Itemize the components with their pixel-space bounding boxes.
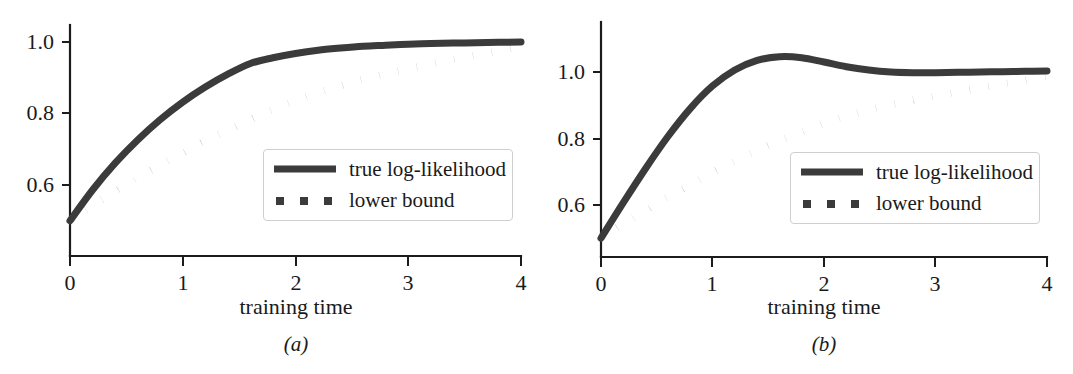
plot-area-b: 1.0 0.8 0.6 0 1 2 3 4 true log-likelihoo… — [536, 0, 1073, 300]
chart-panel-b: 1.0 0.8 0.6 0 1 2 3 4 true log-likelihoo… — [536, 0, 1073, 374]
legend-dotted-line-icon-a — [274, 190, 336, 212]
subcaption-a: (a) — [284, 334, 309, 355]
y-tick-marks-a — [62, 42, 70, 185]
chart-panel-a: 1.0 0.8 0.6 0 1 2 3 4 true log-likelihoo… — [0, 0, 536, 374]
legend-item-lower-bound-b: lower bound — [801, 193, 1027, 216]
y-tick-label-b-0: 1.0 — [539, 61, 585, 83]
legend-label-a-0: true log-likelihood — [349, 159, 506, 180]
legend-item-true-log-likelihood-b: true log-likelihood — [801, 161, 1027, 184]
legend-label-b-1: lower bound — [876, 193, 982, 214]
x-tick-label-a-3: 3 — [403, 272, 414, 294]
x-tick-label-b-3: 3 — [930, 273, 941, 295]
x-tick-label-b-4: 4 — [1042, 273, 1053, 295]
legend-item-true-log-likelihood-a: true log-likelihood — [274, 158, 500, 181]
legend-label-a-1: lower bound — [349, 190, 455, 211]
y-tick-label-a-1: 0.8 — [8, 102, 54, 124]
x-tick-label-b-1: 1 — [707, 273, 718, 295]
x-axis-title-a: training time — [239, 296, 352, 318]
figure-root: 1.0 0.8 0.6 0 1 2 3 4 true log-likelihoo… — [0, 0, 1073, 374]
legend-label-b-0: true log-likelihood — [876, 162, 1033, 183]
x-tick-label-a-4: 4 — [516, 272, 527, 294]
x-tick-label-b-0: 0 — [596, 273, 607, 295]
x-tick-marks-a — [70, 256, 521, 266]
x-axis-title-b: training time — [767, 296, 880, 318]
plot-canvas-b — [536, 0, 1073, 300]
subcaption-b: (b) — [812, 334, 837, 355]
plot-area-a: 1.0 0.8 0.6 0 1 2 3 4 true log-likelihoo… — [0, 0, 536, 300]
legend-a: true log-likelihood lower bound — [263, 149, 513, 221]
y-tick-label-a-2: 0.6 — [8, 174, 54, 196]
legend-solid-line-icon-a — [274, 158, 336, 180]
y-tick-label-b-2: 0.6 — [539, 194, 585, 216]
x-tick-label-a-1: 1 — [178, 272, 189, 294]
x-tick-label-a-0: 0 — [65, 272, 76, 294]
legend-b: true log-likelihood lower bound — [790, 152, 1040, 224]
x-tick-label-b-2: 2 — [819, 273, 830, 295]
x-tick-label-a-2: 2 — [291, 272, 302, 294]
legend-item-lower-bound-a: lower bound — [274, 190, 500, 213]
y-tick-label-a-0: 1.0 — [8, 31, 54, 53]
x-tick-marks-b — [601, 257, 1047, 267]
legend-solid-line-icon-b — [801, 161, 863, 183]
legend-dotted-line-icon-b — [801, 193, 863, 215]
y-tick-label-b-1: 0.8 — [539, 128, 585, 150]
y-tick-marks-b — [593, 72, 601, 205]
